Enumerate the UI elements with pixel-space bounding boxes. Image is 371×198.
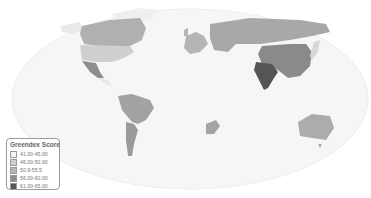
legend-item: 61.00-65.00 xyxy=(10,182,56,190)
legend-item: 46.00-50.90 xyxy=(10,158,56,166)
legend-label: 61.00-65.00 xyxy=(20,183,48,189)
legend-item: 41.00-45.00 xyxy=(10,150,56,158)
region-canada xyxy=(80,18,146,46)
legend-swatch xyxy=(10,159,17,166)
legend-swatch xyxy=(10,183,17,190)
legend-label: 41.00-45.00 xyxy=(20,151,48,157)
world-map: Greendex Score 41.00-45.00 46.00-50.90 5… xyxy=(0,0,371,198)
legend-label: 56.00-60.00 xyxy=(20,175,48,181)
legend-swatch xyxy=(10,167,17,174)
legend-label: 46.00-50.90 xyxy=(20,159,48,165)
legend-label: 50.9-55.5 xyxy=(20,167,42,173)
legend-swatch xyxy=(10,151,17,158)
map-legend: Greendex Score 41.00-45.00 46.00-50.90 5… xyxy=(6,138,60,190)
legend-title: Greendex Score xyxy=(10,141,56,148)
legend-swatch xyxy=(10,175,17,182)
legend-item: 50.9-55.5 xyxy=(10,166,56,174)
legend-item: 56.00-60.00 xyxy=(10,174,56,182)
